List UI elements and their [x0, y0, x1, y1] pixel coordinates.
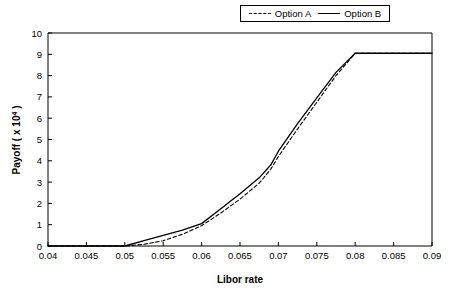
x-tick-label-group: 0.040.0450.050.0550.060.0650.070.0750.08…: [39, 250, 442, 261]
series-line-option-b: [48, 53, 432, 246]
chart-figure: Option A Option B 0.040.0450.050.0550.06…: [0, 0, 456, 295]
y-tick-group: [48, 33, 52, 246]
x-axis-title: Libor rate: [217, 274, 264, 285]
y-tick-label: 0: [37, 241, 42, 252]
y-tick-label: 5: [37, 134, 42, 145]
y-tick-label: 4: [37, 155, 42, 166]
y-tick-label: 6: [37, 113, 42, 124]
y-tick-label: 8: [37, 70, 42, 81]
y-tick-label: 9: [37, 49, 42, 60]
y-axis-title: Payoff ( x 104 ): [11, 106, 23, 175]
x-tick-label: 0.055: [151, 250, 175, 261]
x-tick-label: 0.04: [39, 250, 58, 261]
x-tick-label: 0.08: [346, 250, 365, 261]
svg-text:Payoff ( x 104 ): Payoff ( x 104 ): [11, 106, 23, 175]
series-group: [48, 53, 432, 246]
y-tick-label: 2: [37, 198, 42, 209]
series-line-option-a: [48, 53, 432, 246]
y-tick-label: 1: [37, 219, 42, 230]
x-tick-label: 0.09: [423, 250, 442, 261]
x-tick-label: 0.05: [116, 250, 135, 261]
axes-frame: [48, 33, 432, 246]
plot-area: 0.040.0450.050.0550.060.0650.070.0750.08…: [0, 0, 456, 295]
x-tick-label: 0.06: [192, 250, 211, 261]
x-tick-label: 0.085: [382, 250, 406, 261]
y-tick-label: 7: [37, 91, 42, 102]
x-tick-label: 0.045: [75, 250, 99, 261]
x-tick-label: 0.07: [269, 250, 288, 261]
y-tick-label: 10: [31, 28, 42, 39]
y-axis-title-base: Payoff ( x 10: [11, 115, 22, 174]
y-axis-title-suffix: ): [11, 106, 22, 112]
x-tick-label: 0.075: [305, 250, 329, 261]
x-tick-label: 0.065: [228, 250, 252, 261]
y-tick-label: 3: [37, 177, 42, 188]
y-tick-label-group: 012345678910: [31, 28, 42, 252]
